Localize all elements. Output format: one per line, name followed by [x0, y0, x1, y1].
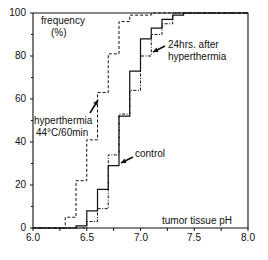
y-tick-20: 20 [2, 179, 26, 190]
annotation-control: control [135, 148, 165, 159]
annotation-24hrs-line1: 24hrs. after [168, 39, 219, 50]
y-tick-40: 40 [2, 136, 26, 147]
y-axis-title: frequency [41, 15, 85, 26]
annotation-arrows [90, 46, 165, 163]
x-tick-7.0: 7.0 [129, 232, 153, 243]
annotation-24hrs-line2: hyperthermia [168, 51, 226, 62]
x-tick-8.0: 8.0 [236, 232, 260, 243]
annotation-hyperthermia-line2: 44°C/60min [36, 127, 88, 138]
x-tick-6.0: 6.0 [21, 232, 45, 243]
x-tick-7.5: 7.5 [182, 232, 206, 243]
y-tick-80: 80 [2, 50, 26, 61]
annotation-hyperthermia-line1: hyperthermia [34, 115, 92, 126]
y-axis-unit: (%) [51, 27, 67, 38]
x-tick-6.5: 6.5 [75, 232, 99, 243]
y-tick-100: 100 [2, 7, 26, 18]
y-tick-60: 60 [2, 93, 26, 104]
x-axis-title: tumor tissue pH [162, 215, 232, 226]
